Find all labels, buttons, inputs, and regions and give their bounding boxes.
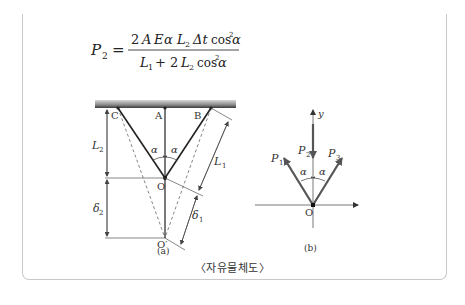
label-p2: P: [297, 144, 306, 157]
figure-caption: 〈자유물체도〉: [0, 259, 465, 275]
label-l1-sub: 1: [222, 162, 226, 170]
num-alpha2: α: [232, 32, 241, 47]
label-alpha-b-right: α: [319, 166, 326, 177]
den-plus: + 2: [155, 55, 178, 70]
label-delta1: δ: [192, 209, 199, 222]
label-y: y: [317, 108, 324, 119]
label-l2-sub: 2: [99, 146, 103, 154]
label-origin: O: [305, 207, 313, 218]
formula-lhs-sub: 2: [102, 51, 108, 61]
den-L1-sub: 1: [148, 63, 153, 72]
force-p1: [284, 158, 313, 205]
formula-lhs: P: [90, 41, 102, 59]
deformed-bar-c: [118, 108, 165, 238]
figure-a-label: (a): [157, 246, 169, 256]
ext-line-b: [211, 108, 232, 120]
figure-b: y P 1 P 2 P 3 α α O (b): [255, 108, 358, 253]
num-L-sub: 2: [185, 40, 190, 49]
deformed-bar-b: [165, 108, 211, 238]
bar-b: [165, 108, 211, 178]
num-alpha: α: [164, 32, 173, 47]
ext-line-o: [165, 178, 203, 196]
label-alpha-b-left: α: [300, 166, 307, 177]
label-delta1-sub: 1: [199, 216, 203, 224]
den-L2-sub: 2: [189, 63, 194, 72]
formula: P 2 = 2 A E α L 2 Δt cos 2 α L 1 + 2 L 2…: [90, 31, 241, 72]
num-coef: 2: [131, 32, 139, 47]
figure-b-label: (b): [304, 243, 317, 253]
force-p3: [313, 158, 342, 205]
num-delta-t: Δt: [192, 32, 208, 47]
pin-a: [163, 106, 166, 109]
label-delta2-sub: 2: [99, 209, 103, 217]
label-l1: L: [213, 155, 221, 168]
label-alpha-right: α: [171, 144, 178, 155]
den-alpha: α: [218, 55, 227, 70]
num-E: E: [153, 32, 164, 47]
label-p3: P: [327, 147, 336, 160]
label-a: A: [154, 110, 163, 121]
num-A: A: [141, 32, 151, 47]
label-c: C: [111, 110, 119, 121]
label-o: O: [157, 181, 165, 192]
label-alpha-left: α: [151, 144, 158, 155]
label-p1-sub: 1: [279, 159, 283, 167]
label-p3-sub: 3: [336, 154, 340, 162]
label-p1: P: [270, 152, 279, 165]
figure-a: C A B O O′ L 2 δ 2 L 1 δ 1 α α (a): [91, 100, 236, 256]
formula-equals: =: [112, 41, 125, 59]
label-p2-sub: 2: [306, 151, 310, 159]
label-b: B: [194, 110, 201, 121]
